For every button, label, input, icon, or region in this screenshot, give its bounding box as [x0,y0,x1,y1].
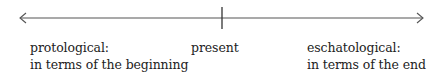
present-title: present [191,39,239,56]
timeline-axis [0,0,443,36]
protological-subtitle: in terms of the beginning [30,56,188,73]
protological-title: protological: [30,39,188,56]
present-label: present [191,39,239,56]
eschatological-label: eschatological: in terms of the end [307,39,426,73]
timeline-diagram: protological: in terms of the beginning … [0,0,443,75]
eschatological-title: eschatological: [307,39,426,56]
protological-label: protological: in terms of the beginning [30,39,188,73]
eschatological-subtitle: in terms of the end [307,56,426,73]
